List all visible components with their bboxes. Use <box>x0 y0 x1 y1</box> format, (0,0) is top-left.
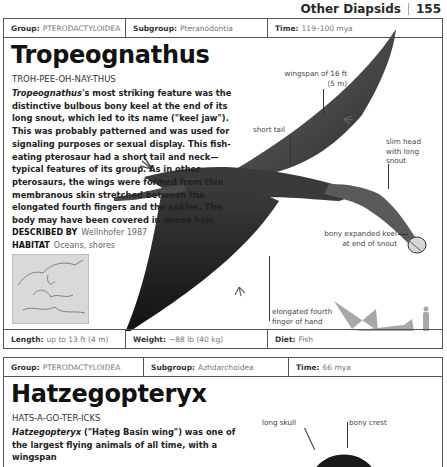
diet-label: Diet: <box>275 335 295 344</box>
description: Tropeognathus's most striking feature wa… <box>12 87 240 227</box>
habitat: HABITATOceans, shores <box>12 239 147 252</box>
description-species: Tropeognathus <box>12 88 82 98</box>
time-cell: Time: 66 mya <box>289 358 442 376</box>
habitat-map <box>12 254 89 324</box>
leader-line <box>398 234 408 235</box>
annotation-long-skull: long skull <box>262 418 296 428</box>
running-head: Other Diapsids 155 <box>300 0 441 18</box>
leader-line <box>269 256 270 321</box>
page-number: 155 <box>416 2 441 16</box>
species-name: Hatzegopteryx <box>11 380 207 408</box>
pronunciation: HATS-A-GO-TER-ICKS <box>12 413 100 423</box>
diet-value: Fish <box>298 335 313 344</box>
annotation-keel: bony expanded keel at end of snout <box>322 229 397 248</box>
section-title: Other Diapsids <box>300 2 400 16</box>
description-body: 's most striking feature was the distinc… <box>12 88 231 225</box>
subgroup-value: Azhdarchoidea <box>198 363 254 372</box>
length-value: up to 13 ft (4 m) <box>47 335 109 344</box>
leader-line <box>290 135 291 165</box>
entry-card-tropeognathus: Group: PTERODACTYLOIDEA Subgroup: Pteran… <box>3 18 443 349</box>
subgroup-label: Subgroup: <box>151 363 195 372</box>
scale-silhouette <box>334 301 429 331</box>
group-value: PTERODACTYLOIDEA <box>43 363 121 372</box>
facts: DESCRIBED BYWellnhofer 1987 HABITATOcean… <box>12 226 147 252</box>
meta-row: Group: PTERODACTYLOIDEA Subgroup: Azhdar… <box>4 358 442 377</box>
group-cell: Group: PTERODACTYLOIDEA <box>4 358 144 376</box>
diet-cell: Diet: Fish <box>268 330 442 348</box>
footer-row: Length: up to 13 ft (4 m) Weight: ~88 lb… <box>4 329 442 348</box>
described-by: DESCRIBED BYWellnhofer 1987 <box>12 226 147 239</box>
habitat-value: Oceans, shores <box>54 241 115 250</box>
leader-line <box>323 89 324 116</box>
annotation-wingspan: wingspan of 16 ft (5 m) <box>277 69 347 88</box>
described-by-value: Wellnhofer 1987 <box>81 228 147 237</box>
described-by-label: DESCRIBED BY <box>12 228 77 237</box>
weight-value: ~88 lb (40 kg) <box>169 335 223 344</box>
length-cell: Length: up to 13 ft (4 m) <box>4 330 126 348</box>
description-species: Hatzegopteryx <box>12 427 81 437</box>
weight-label: Weight: <box>133 335 166 344</box>
time-value: 66 mya <box>323 363 351 372</box>
length-label: Length: <box>11 335 44 344</box>
group-label: Group: <box>11 363 40 372</box>
subgroup-cell: Subgroup: Azhdarchoidea <box>144 358 289 376</box>
entry-card-hatzegopteryx: Group: PTERODACTYLOIDEA Subgroup: Azhdar… <box>3 357 443 467</box>
habitat-label: HABITAT <box>12 241 50 250</box>
species-name: Tropeognathus <box>11 41 210 69</box>
annotation-short-tail: short tail <box>253 125 285 135</box>
annotation-finger: elongated fourth finger of hand <box>272 307 337 326</box>
pronunciation: TROH-PEE-OH-NAY-THUS <box>12 74 116 84</box>
hatzegopteryx-skull-illustration <box>4 444 444 467</box>
time-label: Time: <box>296 363 320 372</box>
europe-map-icon <box>13 255 89 324</box>
leader-line <box>388 164 389 189</box>
annotation-slim-head: slim head with long snout <box>386 137 436 166</box>
annotation-bony-crest: bony crest <box>349 418 387 428</box>
weight-cell: Weight: ~88 lb (40 kg) <box>126 330 268 348</box>
divider <box>408 3 409 15</box>
